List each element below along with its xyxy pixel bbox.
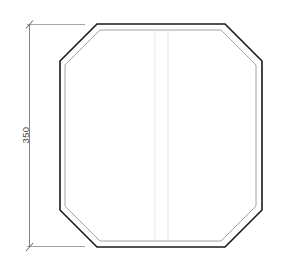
octagon-inner-outline — [65, 30, 256, 241]
octagon-outer-outline — [60, 24, 262, 247]
drawing-canvas: 350 — [0, 0, 290, 267]
centerline-group — [155, 30, 168, 241]
dimension-label-height: 350 — [14, 118, 36, 152]
technical-drawing-svg — [0, 0, 290, 267]
